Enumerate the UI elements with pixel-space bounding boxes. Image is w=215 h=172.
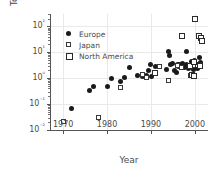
x-axis-title: Year <box>50 155 208 165</box>
data-point-north-america <box>199 38 205 44</box>
data-point-north-america <box>197 63 203 69</box>
data-point-europe <box>184 49 189 54</box>
data-point-north-america <box>191 59 197 65</box>
gridline-vertical <box>63 14 64 130</box>
plot-background <box>50 14 208 130</box>
y-axis-title: Total lipid PBDE (ng/g) <box>9 0 19 14</box>
y-tick-label: 10⁰ <box>32 74 45 82</box>
data-point-europe <box>109 76 114 81</box>
data-point-north-america <box>192 16 198 22</box>
data-point-europe <box>118 79 123 84</box>
legend-label-japan: Japan <box>79 41 100 50</box>
y-tick-label: 10⁻² <box>29 126 45 134</box>
y-axis-title-wrapper: Total lipid PBDE (ng/g) <box>10 14 22 130</box>
x-tick-label: 1980 <box>90 120 124 129</box>
x-tick-major <box>151 131 152 134</box>
y-axis-spine <box>50 14 51 130</box>
y-tick-label: 10⁻¹ <box>29 100 45 108</box>
gridline-horizontal <box>50 78 208 79</box>
legend-marker-north-america-icon <box>66 53 73 60</box>
x-axis-spine <box>50 130 208 131</box>
x-tick-label: 1970 <box>46 120 80 129</box>
x-tick-major <box>63 131 64 134</box>
chart-figure: Human Blood, Milk, and Tissue Total lipi… <box>0 0 215 172</box>
x-tick-label: 2000 <box>178 120 212 129</box>
data-point-north-america <box>191 73 197 79</box>
data-point-europe <box>167 53 172 58</box>
data-point-europe <box>127 65 132 70</box>
legend-label-north-america: North America <box>79 52 133 61</box>
x-tick-major <box>107 131 108 134</box>
x-tick-major <box>195 131 196 134</box>
data-point-japan <box>179 65 184 70</box>
legend-marker-japan-icon <box>66 42 71 47</box>
gridline-horizontal <box>50 104 208 105</box>
gridline-horizontal <box>50 26 208 27</box>
data-point-japan <box>157 64 162 69</box>
y-tick-label: 10¹ <box>32 48 45 56</box>
gridline-vertical <box>107 14 108 130</box>
data-point-europe <box>122 75 127 80</box>
data-point-japan <box>166 78 171 83</box>
data-point-japan <box>118 85 123 90</box>
data-point-europe <box>197 55 202 60</box>
plot-area <box>50 14 208 130</box>
legend-label-europe: Europe <box>79 30 105 39</box>
x-tick-label: 1990 <box>134 120 168 129</box>
data-point-europe <box>105 84 110 89</box>
legend-marker-europe-icon <box>66 31 71 36</box>
data-point-japan <box>144 75 149 80</box>
data-point-north-america <box>152 70 158 76</box>
data-point-north-america <box>179 33 185 39</box>
y-tick-label: 10² <box>32 22 45 30</box>
